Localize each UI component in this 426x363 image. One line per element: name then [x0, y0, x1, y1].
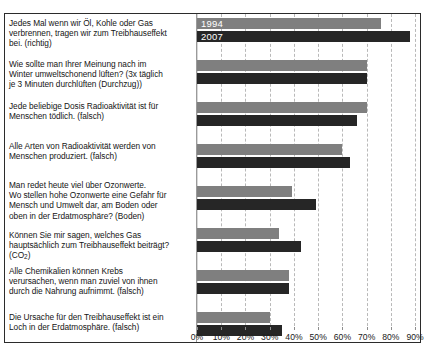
- x-tick-90: [415, 327, 416, 330]
- x-tick-0: [197, 327, 198, 330]
- bar-1994-q2: [197, 60, 367, 71]
- bar-2007-q7: [197, 283, 289, 294]
- bar-1994-q4: [197, 144, 342, 155]
- x-tick-label-90: 90%: [407, 332, 424, 342]
- bar-1994-q5: [197, 186, 292, 197]
- x-tick-20: [245, 327, 246, 330]
- x-tick-label-0: 0%: [191, 332, 203, 342]
- bar-chart-figure: Jedes Mal wenn wir Öl, Kohle oder Gas ve…: [0, 0, 426, 363]
- x-tick-60: [342, 327, 343, 330]
- bar-1994-q7: [197, 270, 289, 281]
- bar-2007-q3: [197, 115, 357, 126]
- x-tick-label-40: 40%: [285, 332, 302, 342]
- x-tick-80: [391, 327, 392, 330]
- x-tick-label-60: 60%: [334, 332, 351, 342]
- gridline-90: [415, 14, 416, 326]
- x-tick-label-30: 30%: [261, 332, 278, 342]
- question-label-3: Jede beliebige Dosis Radioaktivität ist …: [9, 101, 195, 121]
- legend-label-2007: 2007: [201, 31, 223, 42]
- question-label-8: Die Ursache für den Treibhauseffekt ist …: [9, 312, 195, 332]
- bar-1994-q8: [197, 312, 270, 323]
- question-label-2: Wie sollte man Ihrer Meinung nach im Win…: [9, 59, 195, 90]
- gridline-70: [367, 14, 368, 326]
- x-tick-40: [294, 327, 295, 330]
- bar-1994-q1: 1994: [197, 18, 381, 29]
- x-tick-10: [221, 327, 222, 330]
- question-label-6-line1: Können Sie mir sagen, welches Gas: [9, 230, 141, 240]
- bar-2007-q2: [197, 73, 367, 84]
- bar-1994-q3: [197, 102, 367, 113]
- question-label-5: Man redet heute viel über Ozonwerte. Wo …: [9, 180, 195, 221]
- x-tick-label-70: 70%: [358, 332, 375, 342]
- x-tick-30: [270, 327, 271, 330]
- plot-area: 19942007: [197, 14, 420, 326]
- x-tick-label-80: 80%: [382, 332, 399, 342]
- question-label-column: Jedes Mal wenn wir Öl, Kohle oder Gas ve…: [5, 14, 195, 342]
- bar-1994-q6: [197, 228, 279, 239]
- x-tick-50: [318, 327, 319, 330]
- gridline-80: [391, 14, 392, 326]
- bar-2007-q1: 2007: [197, 31, 410, 42]
- x-tick-label-10: 10%: [213, 332, 230, 342]
- question-label-7: Alle Chemikalien können Krebs verursache…: [9, 266, 195, 297]
- x-tick-label-20: 20%: [237, 332, 254, 342]
- x-tick-label-50: 50%: [310, 332, 327, 342]
- bar-2007-q5: [197, 199, 316, 210]
- question-label-6-line2: hauptsächlich zum Treibhauseffekt beiträ…: [9, 240, 169, 250]
- bar-2007-q4: [197, 157, 350, 168]
- question-label-6-line3-post: ): [28, 250, 31, 260]
- bar-2007-q6: [197, 241, 301, 252]
- question-label-6: Können Sie mir sagen, welches Gashauptsä…: [9, 230, 195, 263]
- legend-label-1994: 1994: [201, 18, 223, 29]
- question-label-1: Jedes Mal wenn wir Öl, Kohle oder Gas ve…: [9, 18, 195, 49]
- question-label-4: Alle Arten von Radioaktivität werden von…: [9, 141, 195, 161]
- x-axis: 0%10%20%30%40%50%60%70%80%90%: [197, 327, 420, 357]
- x-tick-70: [367, 327, 368, 330]
- question-label-6-line3-pre: (CO: [9, 250, 24, 260]
